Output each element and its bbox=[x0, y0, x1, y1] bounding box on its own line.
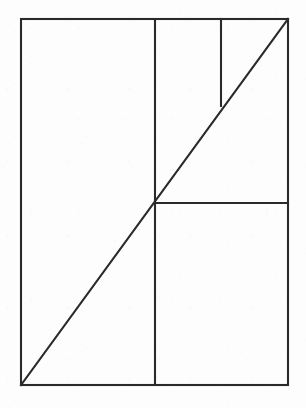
figure-page bbox=[0, 0, 306, 408]
geometric-figure-svg bbox=[0, 0, 306, 408]
